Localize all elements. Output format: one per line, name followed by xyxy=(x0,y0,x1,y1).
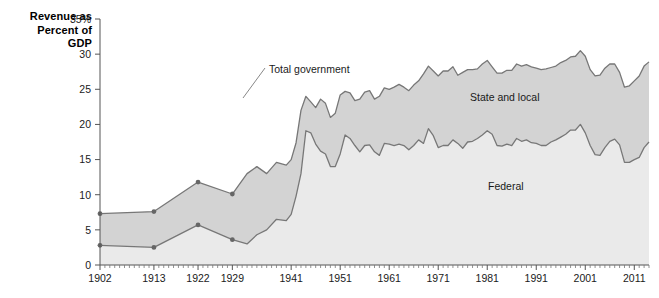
chart-figure: Revenue as Percent of GDP 05101520253035… xyxy=(0,0,659,298)
y-axis-tick-labels: 05101520253035% xyxy=(70,13,91,271)
annotation-state-and-local: State and local xyxy=(470,91,539,103)
x-axis-tick-label: 1991 xyxy=(525,272,549,284)
y-axis-tick-label: 20 xyxy=(79,118,91,130)
data-point-marker xyxy=(230,192,235,197)
x-axis-tick-label: 1941 xyxy=(279,272,303,284)
y-axis-tick-label: 30 xyxy=(79,48,91,60)
x-axis-tick-label: 1971 xyxy=(427,272,451,284)
x-axis-tick-label: 1981 xyxy=(476,272,500,284)
x-axis-tick-label: 1902 xyxy=(88,272,112,284)
data-point-marker xyxy=(196,180,201,185)
y-axis-tick-label: 0 xyxy=(85,259,91,271)
x-axis-tick-label: 1951 xyxy=(329,272,353,284)
x-axis-tick-label: 2011 xyxy=(623,272,646,284)
y-axis-tick-label: 15 xyxy=(79,153,91,165)
annotation-federal: Federal xyxy=(488,180,524,192)
annotation-total-government: Total government xyxy=(269,63,350,75)
x-axis-tick-labels: 1902191319221929194119511961197119811991… xyxy=(88,272,645,284)
x-axis-tick-label: 1913 xyxy=(142,272,166,284)
y-axis-tick-label: 10 xyxy=(79,189,91,201)
x-axis-tick-label: 1929 xyxy=(221,272,245,284)
y-axis-tick-label: 5 xyxy=(85,224,91,236)
data-point-marker xyxy=(230,237,235,242)
y-axis-tick-label: 25 xyxy=(79,83,91,95)
data-point-marker xyxy=(152,245,157,250)
area-chart: 05101520253035% 190219131922192919411951… xyxy=(0,0,659,298)
x-axis-tick-label: 2001 xyxy=(574,272,598,284)
y-axis-tick-label: 35% xyxy=(70,13,91,25)
data-point-marker xyxy=(152,209,157,214)
data-point-marker xyxy=(196,223,201,228)
total-government-leader-line xyxy=(243,68,265,98)
x-axis-tick-label: 1922 xyxy=(186,272,210,284)
x-axis-tick-label: 1961 xyxy=(378,272,402,284)
